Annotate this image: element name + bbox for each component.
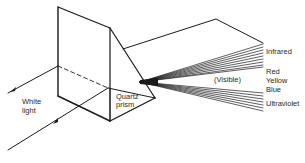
- white-light-label-line1: White: [22, 98, 41, 106]
- red-label: Red: [266, 68, 280, 76]
- visible-label: (Visible): [214, 76, 241, 84]
- prism-dispersion-diagram: White light Quartz prism (Visible) Infra…: [0, 0, 305, 163]
- ultraviolet-label: Ultraviolet: [266, 100, 299, 108]
- prism-shape: [58, 7, 155, 121]
- screen-outline: [123, 19, 263, 49]
- ultraviolet-ray-fan: [140, 82, 263, 111]
- infrared-ray-fan: [140, 44, 263, 82]
- blue-label: Blue: [266, 86, 281, 94]
- white-light-label-line2: light: [22, 107, 36, 115]
- prism-label-line2: prism: [116, 101, 134, 109]
- yellow-label: Yellow: [266, 77, 287, 85]
- infrared-label: Infrared: [266, 48, 292, 56]
- diagram-graphic: [0, 0, 305, 163]
